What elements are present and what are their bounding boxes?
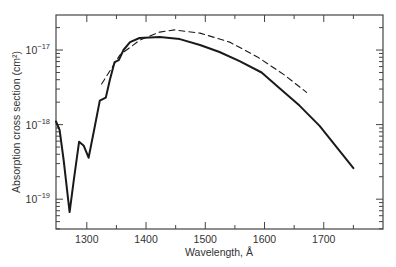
y-tick-label: 10−19 xyxy=(26,191,50,205)
y-axis-label: Absorption cross section (cm²) xyxy=(10,51,22,193)
series-line-dashed xyxy=(102,30,307,93)
x-tick-label: 1600 xyxy=(253,233,277,245)
x-tick-label: 1500 xyxy=(194,233,218,245)
plot-frame xyxy=(56,15,383,229)
x-axis-label: Wavelength, Å xyxy=(185,246,253,258)
y-tick-label: 10−17 xyxy=(26,42,50,56)
series-group xyxy=(56,30,353,212)
chart: 13001400150016001700 10−1710−1810−19 Wav… xyxy=(0,0,396,267)
x-tick-label: 1700 xyxy=(312,233,336,245)
series-line-solid xyxy=(56,37,353,212)
y-tick-label: 10−18 xyxy=(26,117,50,131)
x-tick-label: 1300 xyxy=(75,233,99,245)
y-axis: 10−1710−1810−19 xyxy=(26,28,383,229)
x-tick-label: 1400 xyxy=(134,233,158,245)
